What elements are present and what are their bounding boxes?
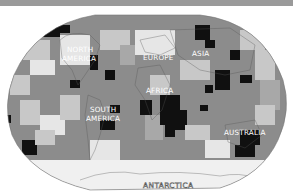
data-cell	[205, 85, 213, 93]
data-cell	[215, 70, 230, 90]
label-africa: AFRICA	[146, 86, 173, 95]
label-south-america-1: SOUTH	[90, 105, 116, 114]
data-cell	[20, 100, 40, 125]
antarctica-region	[0, 160, 293, 196]
data-cell	[30, 60, 55, 75]
data-cell	[185, 125, 210, 140]
data-cell	[60, 95, 80, 120]
data-cell	[195, 25, 210, 40]
data-cell	[90, 140, 120, 160]
data-cell	[55, 25, 70, 33]
data-cell	[20, 40, 50, 60]
data-cell	[120, 45, 135, 65]
data-cell	[180, 60, 210, 80]
data-cell	[35, 130, 55, 145]
label-antarctica: ANTARCTICA	[143, 181, 193, 190]
label-australia: AUSTRALIA	[224, 128, 266, 137]
data-cell	[255, 50, 275, 80]
data-cell	[200, 105, 208, 111]
data-cell	[105, 70, 115, 80]
data-cell	[165, 125, 175, 137]
label-north-america-2: AMERICA	[62, 54, 96, 63]
world-map[interactable]: NORTH AMERICA EUROPE ASIA AFRICA SOUTH A…	[0, 0, 293, 196]
label-asia: ASIA	[192, 49, 209, 58]
data-cell	[22, 140, 37, 155]
map-body	[0, 0, 293, 196]
data-cell	[240, 75, 252, 83]
label-south-america-2: AMERICA	[86, 114, 120, 123]
data-cell	[205, 40, 215, 48]
data-cell	[255, 105, 275, 125]
data-cell	[235, 145, 255, 157]
data-cell	[230, 50, 240, 60]
label-north-america-1: NORTH	[67, 45, 93, 54]
data-cell	[205, 140, 230, 158]
label-europe: EUROPE	[143, 53, 174, 62]
data-cell	[240, 30, 265, 50]
